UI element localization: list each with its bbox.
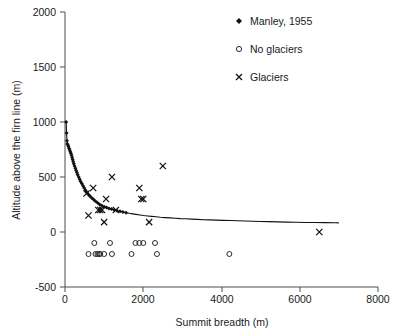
axes-group: [65, 12, 378, 287]
x-tick-label-8000: 8000: [366, 293, 390, 305]
data-point-open-circle: [129, 252, 134, 257]
x-axis-title: Summit breadth (m): [176, 316, 269, 328]
legend-entry-manley[interactable]: Manley, 1955: [236, 15, 312, 27]
y-tick-label-2000: 2000: [33, 6, 57, 18]
y-tick-label-minus500: -500: [35, 281, 56, 293]
data-point-open-circle: [86, 252, 91, 257]
legend-label-no-glaciers: No glaciers: [250, 43, 303, 55]
data-point-cross: [90, 185, 96, 191]
data-point-cross: [109, 174, 115, 180]
y-axis-tick-labels: 2000 1500 1000 500 0 -500: [33, 6, 57, 293]
data-point-cross: [85, 212, 91, 218]
x-tick-label-4000: 4000: [210, 293, 234, 305]
legend-filled-diamond-icon: [236, 18, 242, 24]
legend: Manley, 1955 No glaciers Glaciers: [236, 15, 312, 83]
chart-figure: 2000 1500 1000 500 0 -500 0 2000 4000 60…: [0, 0, 397, 336]
legend-label-manley: Manley, 1955: [250, 15, 312, 27]
x-tick-label-2000: 2000: [131, 293, 155, 305]
x-axis-ticks: [65, 287, 378, 292]
scatter-plot-svg: 2000 1500 1000 500 0 -500 0 2000 4000 60…: [0, 0, 397, 336]
y-tick-label-0: 0: [50, 226, 56, 238]
y-axis-title: Altitude above the firn line (m): [10, 80, 22, 219]
legend-open-circle-icon: [236, 46, 241, 51]
data-point-diamond: [65, 139, 69, 143]
x-tick-label-6000: 6000: [288, 293, 312, 305]
data-point-open-circle: [152, 241, 157, 246]
data-point-cross: [101, 219, 107, 225]
series-no-glaciers: [86, 241, 232, 257]
data-point-diamond: [121, 210, 125, 214]
data-point-open-circle: [109, 252, 114, 257]
data-point-cross: [136, 185, 142, 191]
y-tick-label-1000: 1000: [33, 116, 57, 128]
data-point-cross: [103, 196, 109, 202]
data-point-open-circle: [107, 241, 112, 246]
data-point-cross: [160, 163, 166, 169]
y-tick-label-500: 500: [38, 171, 56, 183]
data-point-diamond: [124, 211, 128, 215]
data-point-open-circle: [227, 252, 232, 257]
data-point-open-circle: [92, 241, 97, 246]
legend-entry-glaciers[interactable]: Glaciers: [236, 71, 289, 83]
y-tick-label-1500: 1500: [33, 61, 57, 73]
data-point-open-circle: [154, 252, 159, 257]
legend-label-glaciers: Glaciers: [250, 71, 289, 83]
y-axis-ticks: [60, 12, 65, 287]
data-point-cross: [146, 219, 152, 225]
data-point-cross: [316, 229, 322, 235]
x-axis-tick-labels: 0 2000 4000 6000 8000: [62, 293, 390, 305]
series-glaciers: [83, 163, 322, 235]
legend-cross-icon: [236, 74, 242, 80]
x-tick-label-0: 0: [62, 293, 68, 305]
legend-entry-no-glaciers[interactable]: No glaciers: [236, 43, 302, 55]
